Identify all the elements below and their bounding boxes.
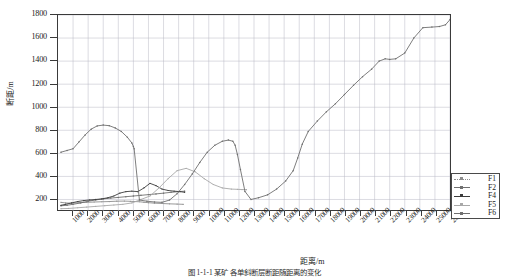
chart-legend[interactable]: F1F2F4F5F6 xyxy=(451,173,500,219)
data-point xyxy=(258,197,259,198)
data-point xyxy=(139,199,140,200)
data-point xyxy=(214,145,215,146)
y-tick-label: 1800 xyxy=(7,10,47,18)
y-tick-label: 1400 xyxy=(7,56,47,64)
data-point xyxy=(80,202,81,203)
legend-swatch-f2 xyxy=(454,184,470,191)
data-point xyxy=(66,150,67,151)
data-point xyxy=(161,202,162,203)
x-tick-mark xyxy=(269,211,270,216)
x-tick-mark xyxy=(390,211,391,216)
data-point xyxy=(110,197,111,198)
data-point xyxy=(292,170,293,171)
data-point xyxy=(184,192,185,193)
data-point xyxy=(167,178,168,179)
data-point xyxy=(344,94,345,95)
data-point xyxy=(297,157,298,158)
data-point xyxy=(228,139,229,140)
x-tick-mark xyxy=(421,211,422,216)
data-point xyxy=(86,206,87,207)
data-point xyxy=(71,202,72,203)
y-tick-label: 800 xyxy=(7,126,47,134)
data-point xyxy=(184,184,185,185)
x-tick-mark xyxy=(315,211,316,216)
data-point xyxy=(131,142,132,143)
data-point xyxy=(94,201,95,202)
x-tick-mark xyxy=(299,211,300,216)
data-point xyxy=(101,201,102,202)
data-point xyxy=(384,58,385,59)
data-point xyxy=(431,26,432,27)
y-tick-mark xyxy=(50,107,57,108)
data-point xyxy=(169,199,170,200)
data-point xyxy=(102,124,103,125)
data-point xyxy=(285,180,286,181)
y-tick-label: 1600 xyxy=(7,33,47,41)
y-tick-label: 400 xyxy=(7,172,47,180)
data-point xyxy=(378,60,379,61)
y-tick-label: 1000 xyxy=(7,103,47,111)
data-point xyxy=(404,52,405,53)
data-point xyxy=(133,148,134,149)
data-point xyxy=(68,208,69,209)
data-point xyxy=(87,200,88,201)
data-point xyxy=(119,193,120,194)
legend-item-f6[interactable]: F6 xyxy=(454,209,497,218)
data-point xyxy=(66,204,67,205)
data-point xyxy=(439,26,440,27)
data-point xyxy=(191,173,192,174)
data-point xyxy=(176,193,177,194)
y-tick-mark xyxy=(50,176,57,177)
data-point xyxy=(116,201,117,202)
data-point xyxy=(148,202,149,203)
data-point xyxy=(173,191,174,192)
chart-figure: 断距/m 20040060080010001200140016001800 10… xyxy=(0,0,509,279)
data-point xyxy=(155,193,156,194)
data-point xyxy=(276,188,277,189)
data-point xyxy=(362,76,363,77)
x-tick-mark xyxy=(193,211,194,216)
data-point xyxy=(389,59,390,60)
legend-swatch-f4 xyxy=(454,193,470,200)
y-tick-mark xyxy=(50,199,57,200)
x-tick-mark xyxy=(436,211,437,216)
data-point xyxy=(60,151,61,152)
data-point xyxy=(133,146,134,147)
data-point xyxy=(213,184,214,185)
data-point xyxy=(422,27,423,28)
data-point xyxy=(158,187,159,188)
data-point xyxy=(234,145,235,146)
y-tick-mark xyxy=(50,37,57,38)
data-point xyxy=(124,200,125,201)
legend-swatch-f5 xyxy=(454,202,470,209)
x-tick-mark xyxy=(406,211,407,216)
data-point xyxy=(317,120,318,121)
data-point xyxy=(149,183,150,184)
data-point xyxy=(146,200,147,201)
series-line-f6 xyxy=(61,20,450,203)
data-point xyxy=(90,128,91,129)
data-point xyxy=(83,200,84,201)
data-point xyxy=(72,148,73,149)
x-tick-mark xyxy=(345,211,346,216)
y-tick-label: 200 xyxy=(7,195,47,203)
series-container xyxy=(58,15,450,211)
data-point xyxy=(95,206,96,207)
data-point xyxy=(95,199,96,200)
data-point xyxy=(101,198,102,199)
data-point xyxy=(140,195,141,196)
data-point xyxy=(240,169,241,170)
data-point xyxy=(155,185,156,186)
x-tick-mark xyxy=(102,211,103,216)
x-tick-mark xyxy=(254,211,255,216)
data-point xyxy=(163,192,164,193)
y-tick-mark xyxy=(50,84,57,85)
data-point xyxy=(109,201,110,202)
x-tick-mark xyxy=(87,211,88,216)
data-point xyxy=(118,197,119,198)
data-point xyxy=(244,191,245,192)
x-tick-mark xyxy=(178,211,179,216)
data-point xyxy=(413,37,414,38)
data-point xyxy=(246,189,247,190)
data-point xyxy=(139,201,140,202)
